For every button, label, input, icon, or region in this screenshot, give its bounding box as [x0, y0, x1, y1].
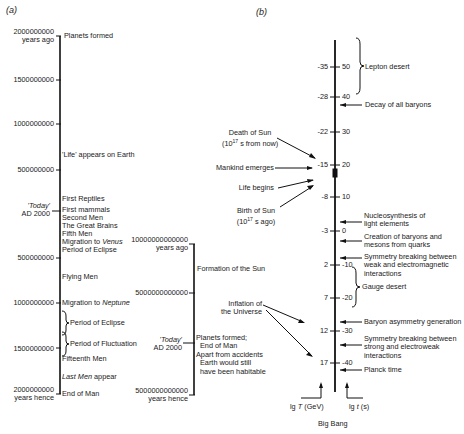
tick-label: -22 [317, 128, 328, 136]
brace [62, 332, 69, 356]
event-life-begins: Life begins [239, 184, 274, 192]
tick-label: 50 [342, 63, 350, 71]
big-bang-label: Big Bang [318, 420, 348, 428]
event-label: Migration to Neptune [62, 299, 130, 307]
tick-label: 0 [342, 227, 346, 235]
event-label: First Reptiles [62, 195, 105, 203]
tick-label: 7 [324, 294, 328, 302]
event-symmetry-weak: Symmetry breaking betweenweak and electr… [364, 253, 456, 278]
tick-label: 500000000 [17, 254, 54, 262]
tick-label: 1000000000 [13, 299, 54, 307]
tick-label: 12 [320, 327, 328, 335]
tick-label: 17 [320, 359, 328, 367]
tick-label: -40 [342, 359, 353, 367]
today-label: 'Today'AD 2000 [154, 336, 182, 353]
event-label: Planets formed; End of Man Apart from ac… [196, 334, 276, 376]
tick-label: -10 [342, 261, 353, 269]
event-baryon-asymmetry: Baryon asymmetry generation [364, 318, 461, 326]
tick-label: 10 [342, 193, 350, 201]
event-label: Period of Fluctuation [70, 340, 137, 348]
tick-label: -30 [342, 327, 353, 335]
event-label: Fifteenth Men [62, 355, 107, 363]
event-label: 'Life' appears on Earth [62, 151, 135, 159]
panel-a-label: (a) [6, 6, 17, 14]
tick-label: -3 [322, 227, 329, 235]
event-label: Planets formed [64, 32, 113, 40]
tick-label: -8 [322, 193, 329, 201]
tick-label: 10000000000000years ago [131, 236, 188, 253]
tick-label: 1500000000 [13, 345, 54, 353]
tick-label: 40 [342, 93, 350, 101]
tick-label: -28 [317, 93, 328, 101]
event-inflation: Inflation of the Universe [221, 300, 262, 317]
event-mankind-emerges: Mankind emerges [216, 164, 274, 172]
event-label: Flying Men [62, 273, 98, 281]
tick-label: 2 [324, 261, 328, 269]
event-label: Period of Eclipse [62, 246, 117, 254]
tick-label: -15 [317, 161, 328, 169]
axis-label-time: lg t (s) [349, 403, 369, 411]
event-label: Last Men appear [62, 373, 117, 381]
event-creation-baryons: Creation of baryons andmesons from quark… [364, 233, 442, 250]
event-label: End of Man [62, 390, 99, 398]
tick-label: -20 [342, 294, 353, 302]
tick-label: 5000000000000years hence [135, 387, 188, 404]
brace [352, 267, 360, 307]
tick-label: 30 [342, 128, 350, 136]
today-label: 'Today'AD 2000 [22, 202, 50, 219]
event-gauge-desert: Gauge desert [362, 283, 406, 291]
today-marker [333, 169, 337, 177]
tick-label: 2000000000years hence [13, 386, 54, 403]
event-planck-time: Planck time [364, 366, 402, 374]
tick-label: 1500000000 [13, 76, 54, 84]
tick-label: -35 [317, 63, 328, 71]
event-birth-of-sun: Birth of Sun (1017 s ago) [230, 207, 282, 227]
brace [62, 311, 69, 335]
event-label: Formation of the Sun [197, 265, 265, 273]
event-nucleosynthesis: Nucleosynthesis oflight elements [364, 212, 425, 229]
event-label: Period of Eclipse [70, 319, 125, 327]
axis-label-temperature: lg T (GeV) [290, 403, 324, 411]
tick-label: 1000000000 [13, 120, 54, 128]
panel-b-label: (b) [256, 8, 267, 16]
event-lepton-desert: Lepton desert [365, 63, 410, 71]
event-symmetry-strong: Symmetry breaking betweenstrong and elec… [364, 335, 456, 360]
tick-label: 5000000000000 [135, 289, 188, 297]
brace [356, 38, 364, 94]
event-decay-baryons: Decay of all baryons [365, 101, 431, 109]
tick-label: 20 [342, 161, 350, 169]
tick-label: 500000000 [17, 166, 54, 174]
event-death-of-sun: Death of Sun (1017 s from now) [222, 129, 278, 149]
tick-label: 2000000000years ago [13, 28, 54, 45]
